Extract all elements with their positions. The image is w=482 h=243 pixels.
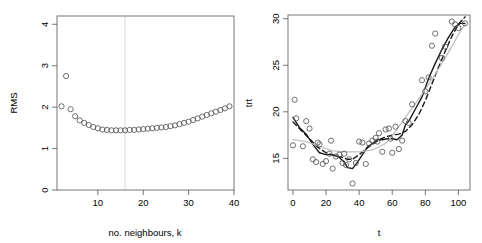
data-point-marker <box>400 138 405 143</box>
x-tick-label: 40 <box>229 197 240 208</box>
fitted-curves-right <box>293 17 465 169</box>
scatter-points-right <box>290 19 467 186</box>
data-point-marker <box>433 31 438 36</box>
x-axis-title-right: t <box>378 227 381 238</box>
data-point-marker <box>376 131 381 136</box>
fitted-curve-smoother-dashed <box>293 17 465 159</box>
data-point-marker <box>350 181 355 186</box>
panel-left-axes <box>52 16 234 195</box>
panel-right-axes <box>283 15 470 195</box>
data-point-marker <box>73 114 78 119</box>
data-point-marker <box>357 139 362 144</box>
data-point-marker <box>360 140 365 145</box>
y-axis-title-left: RMS <box>8 92 19 113</box>
figure-canvas: 1020304001234 no. neighbours, k RMS 0204… <box>0 0 482 243</box>
panel-rms-vs-k: 1020304001234 no. neighbours, k RMS <box>0 0 241 243</box>
x-tick-label: 80 <box>420 197 431 208</box>
x-axis-title-left: no. neighbours, k <box>109 227 182 238</box>
x-tick-label: 40 <box>354 197 365 208</box>
data-point-marker <box>323 159 328 164</box>
data-point-marker <box>294 116 299 121</box>
x-tick-label: 20 <box>138 197 149 208</box>
y-tick-label: 3 <box>39 63 50 68</box>
data-point-marker <box>328 138 333 143</box>
data-point-marker <box>396 146 401 151</box>
data-point-marker <box>320 161 325 166</box>
x-tick-label: 60 <box>387 197 398 208</box>
data-point-marker <box>290 143 295 148</box>
data-point-marker <box>390 150 395 155</box>
x-tick-label: 20 <box>321 197 332 208</box>
axis-ticks-right <box>283 19 458 195</box>
data-point-marker <box>310 157 315 162</box>
x-tick-label: 100 <box>450 197 466 208</box>
panel-right-svg: 02040608010015202530 t trt <box>241 0 482 243</box>
data-point-marker <box>429 43 434 48</box>
data-point-marker <box>386 126 391 131</box>
y-tick-label: 2 <box>39 104 50 109</box>
data-point-marker <box>363 161 368 166</box>
data-point-marker <box>300 144 305 149</box>
data-point-marker <box>227 104 232 109</box>
y-tick-label: 15 <box>270 153 281 164</box>
tick-labels-right: 02040608010015202530 <box>270 13 466 208</box>
data-point-marker <box>330 166 335 171</box>
data-point-marker <box>292 97 297 102</box>
fitted-curve-smoother-gray <box>293 24 465 152</box>
y-tick-label: 30 <box>270 13 281 24</box>
data-point-marker <box>393 124 398 129</box>
y-tick-label: 4 <box>39 22 50 27</box>
y-tick-label: 0 <box>39 187 50 192</box>
data-point-marker <box>68 107 73 112</box>
data-point-marker <box>383 127 388 132</box>
x-tick-label: 0 <box>290 197 295 208</box>
panel-left-svg: 1020304001234 no. neighbours, k RMS <box>0 0 241 243</box>
plot-box-left <box>57 16 234 190</box>
data-point-marker <box>409 102 414 107</box>
x-tick-label: 10 <box>93 197 104 208</box>
y-axis-title-right: trt <box>243 98 254 107</box>
axis-ticks-left <box>52 24 234 195</box>
data-point-marker <box>370 138 375 143</box>
data-point-marker <box>63 73 68 78</box>
data-point-marker <box>419 78 424 83</box>
plot-box-right <box>288 15 470 190</box>
data-point-marker <box>307 126 312 131</box>
x-tick-label: 30 <box>183 197 194 208</box>
scatter-points-left <box>59 73 232 132</box>
data-point-marker <box>449 19 454 24</box>
data-point-marker <box>380 149 385 154</box>
y-tick-label: 25 <box>270 60 281 71</box>
panel-trt-vs-t: 02040608010015202530 t trt <box>241 0 482 243</box>
data-point-marker <box>59 104 64 109</box>
y-tick-label: 1 <box>39 146 50 151</box>
y-tick-label: 20 <box>270 107 281 118</box>
data-point-marker <box>304 119 309 124</box>
data-point-marker <box>314 159 319 164</box>
